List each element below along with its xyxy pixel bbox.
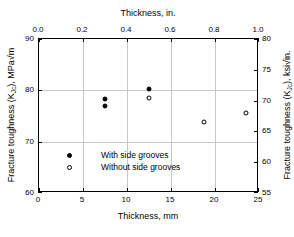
right-axis-title-prefix: Fracture toughness (K (282, 90, 292, 179)
bottom-axis-tick (83, 188, 84, 192)
right-axis-tick (254, 39, 258, 40)
data-point-with-side-grooves (103, 103, 108, 108)
legend-filled-circle-icon (67, 153, 72, 158)
right-axis-tick-label: 80 (262, 34, 271, 43)
left-axis-tick (38, 90, 42, 91)
legend-open-circle-icon (67, 165, 72, 170)
left-axis-title-suffix: ), MPa√m (6, 48, 16, 87)
top-axis-tick-label: 0.6 (164, 25, 175, 34)
bottom-axis-tick (215, 188, 216, 192)
legend-label: With side grooves (101, 149, 169, 161)
right-axis-tick (254, 101, 258, 102)
bottom-axis-tick-label: 15 (166, 195, 175, 204)
left-axis-tick-label: 70 (25, 136, 34, 145)
right-axis-tick-label: 75 (262, 64, 271, 73)
bottom-axis-tick-label: 10 (122, 195, 131, 204)
right-axis-tick (254, 70, 258, 71)
right-axis-tick-label: 65 (262, 126, 271, 135)
top-axis-tick-label: 0.4 (120, 25, 131, 34)
top-axis-tick (83, 38, 84, 42)
right-axis-title: Fracture toughness (KJc), ksi√in. (282, 51, 293, 180)
top-axis-tick (258, 38, 259, 42)
right-axis-tick (254, 192, 258, 193)
bottom-axis-tick (127, 188, 128, 192)
top-axis-tick (127, 38, 128, 42)
right-axis-tick-label: 70 (262, 95, 271, 104)
right-axis-title-suffix: ), ksi√in. (282, 51, 292, 84)
top-axis-tick-label: 0.0 (32, 25, 43, 34)
bottom-axis-title: Thickness, mm (118, 211, 179, 221)
right-axis-tick-label: 55 (262, 188, 271, 197)
bottom-axis-tick-label: 5 (80, 195, 84, 204)
left-axis-title-subscript: Jc (10, 87, 17, 94)
top-axis-tick (215, 38, 216, 42)
fracture-toughness-scatter-chart: Thickness, in. 0.0 0.2 0.4 0.6 0.8 1.0 9… (0, 0, 294, 237)
top-axis-tick-label: 0.2 (76, 25, 87, 34)
left-axis-tick-label: 80 (25, 85, 34, 94)
gridline-vertical (215, 39, 216, 191)
bottom-axis-tick (171, 188, 172, 192)
left-axis-tick (38, 192, 42, 193)
left-axis-title-prefix: Fracture toughness (K (6, 93, 16, 182)
right-axis-tick (254, 131, 258, 132)
top-axis-tick (171, 38, 172, 42)
top-axis-tick-label: 0.8 (208, 25, 219, 34)
left-axis-tick (38, 39, 42, 40)
bottom-axis-tick (258, 188, 259, 192)
data-point-without-side-grooves (202, 120, 207, 125)
data-point-with-side-grooves (103, 97, 108, 102)
right-axis-tick (254, 162, 258, 163)
gridline-horizontal (39, 142, 257, 143)
left-axis-tick (38, 142, 42, 143)
right-axis-tick-label: 60 (262, 157, 271, 166)
left-axis-tick-label: 90 (25, 34, 34, 43)
left-axis-title: Fracture toughness (KJc), MPa√m (6, 48, 17, 183)
bottom-axis-tick-label: 0 (36, 195, 40, 204)
left-axis-tick-label: 60 (25, 188, 34, 197)
bottom-axis-tick-label: 20 (210, 195, 219, 204)
plot-area: With side grooves Without side grooves (38, 38, 258, 192)
data-point-without-side-grooves (243, 110, 248, 115)
right-axis-title-subscript: Jc (286, 84, 293, 91)
bottom-axis-tick-label: 25 (254, 195, 263, 204)
legend-label: Without side grooves (101, 161, 180, 173)
data-point-without-side-grooves (147, 96, 152, 101)
top-axis-title: Thickness, in. (120, 8, 175, 18)
data-point-with-side-grooves (147, 86, 152, 91)
gridline-vertical (83, 39, 84, 191)
